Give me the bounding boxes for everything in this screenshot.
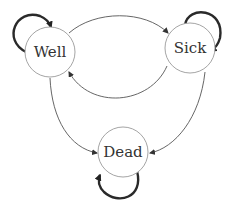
state-well: Well [25,27,75,77]
state-diagram: Well Sick Dead [0,0,235,202]
arrow-well-to-dead [50,78,97,153]
arrow-sick-to-dead [150,72,205,153]
state-dead: Dead [98,127,148,177]
arrow-well-to-sick [69,16,168,33]
arrow-sick-to-well [69,66,167,98]
state-well-label: Well [34,43,67,61]
state-sick: Sick [165,23,215,73]
state-dead-label: Dead [103,143,143,161]
state-sick-label: Sick [174,39,207,57]
